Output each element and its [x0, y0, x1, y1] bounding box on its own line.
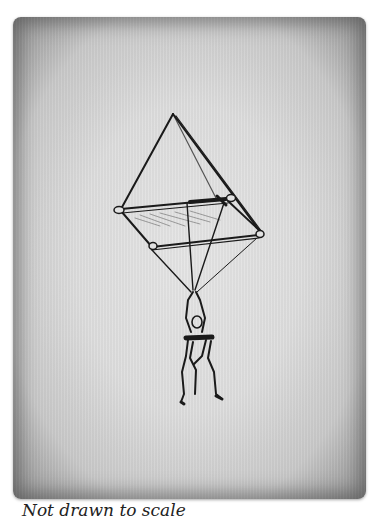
suspension-lines — [152, 203, 257, 292]
parachute-drawing — [0, 0, 371, 520]
canopy — [121, 114, 262, 250]
figure-caption: Not drawn to scale — [22, 500, 186, 520]
canopy-hatching — [135, 211, 220, 226]
person-figure — [181, 292, 222, 404]
